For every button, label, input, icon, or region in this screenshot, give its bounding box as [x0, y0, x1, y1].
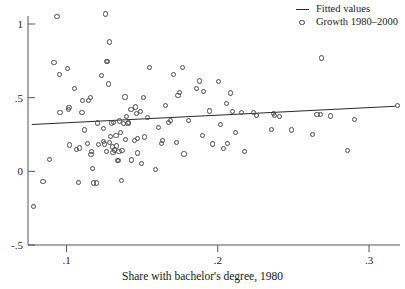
scatter-point [79, 110, 84, 115]
scatter-point [129, 157, 134, 162]
scatter-point [177, 90, 182, 95]
scatter-point [277, 114, 282, 119]
axis-and-data-layer [0, 0, 405, 289]
x-tick-label: .1 [62, 255, 70, 266]
scatter-point [47, 157, 52, 162]
scatter-point [82, 127, 87, 132]
scatter-point [200, 133, 205, 138]
plot-area: -.50.51 .1.2.3 [0, 0, 405, 289]
x-tick-label: .2 [214, 255, 222, 266]
scatter-point [90, 166, 95, 171]
scatter-point [106, 81, 111, 86]
scatter-point [119, 178, 124, 183]
scatter-point [310, 132, 315, 137]
scatter-point [95, 120, 100, 125]
y-tick-label: 0 [0, 166, 23, 177]
circle-marker-icon [291, 20, 313, 25]
scatter-point [221, 146, 226, 151]
fitted-values-line-path [32, 106, 396, 124]
scatter-point [345, 148, 350, 153]
scatter-point [194, 86, 199, 91]
y-tick-label: -.5 [0, 240, 23, 251]
scatter-point [99, 73, 104, 78]
x-tick-label: .3 [365, 255, 373, 266]
scatter-point [124, 114, 129, 119]
scatter-point [197, 78, 202, 83]
y-tick-label: .5 [0, 92, 23, 103]
chart-figure: -.50.51 .1.2.3 Share with bachelor's deg… [0, 0, 405, 289]
line-marker-icon [291, 9, 313, 10]
scatter-point [119, 148, 124, 153]
x-axis-title: Share with bachelor's degree, 1980 [0, 271, 405, 283]
scatter-point [142, 134, 147, 139]
scatter-point [319, 55, 324, 60]
scatter-point [207, 108, 212, 113]
scatter-point [107, 39, 112, 44]
scatter-point [135, 136, 140, 141]
scatter-point [171, 72, 176, 77]
scatter-point [168, 118, 173, 123]
scatter-point [181, 151, 186, 156]
scatter-point [94, 180, 99, 185]
scatter-point [239, 110, 244, 115]
scatter-point [186, 118, 191, 123]
scatter-point [57, 72, 62, 77]
scatter-point [180, 65, 185, 70]
scatter-point [51, 60, 56, 65]
scatter-point [147, 65, 152, 70]
scatter-point [31, 204, 36, 209]
x-tick-marks [67, 245, 369, 252]
scatter-point [103, 11, 108, 16]
scatter-point [40, 179, 45, 184]
scatter-point [153, 167, 158, 172]
scatter-point [133, 104, 138, 109]
scatter-point [122, 94, 127, 99]
scatter-point [174, 140, 179, 145]
scatter-point [289, 127, 294, 132]
scatter-point [57, 110, 62, 115]
legend-label-growth: Growth 1980–2000 [313, 17, 398, 28]
scatter-point [233, 130, 238, 135]
legend-item-fitted-values: Fitted values [291, 3, 398, 16]
scatter-point [141, 95, 146, 100]
scatter-point [77, 145, 82, 150]
scatter-point [328, 113, 333, 118]
y-tick-label: 1 [0, 19, 23, 30]
chart-legend: Fitted values Growth 1980–2000 [291, 3, 398, 29]
y-tick-marks [28, 24, 35, 245]
scatter-point [72, 86, 77, 91]
legend-item-growth: Growth 1980–2000 [291, 16, 398, 29]
fitted-values-line [32, 106, 396, 124]
scatter-point [114, 143, 119, 148]
legend-label-fitted-values: Fitted values [313, 4, 370, 15]
scatter-point [210, 141, 215, 146]
